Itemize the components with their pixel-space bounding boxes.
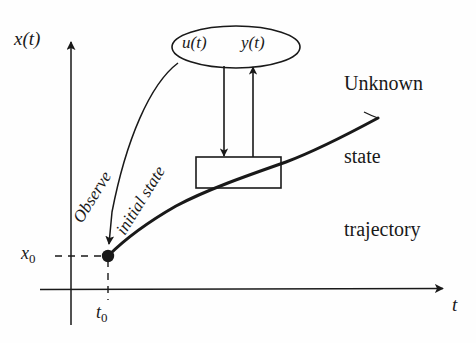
unknown-caption-line-3: trajectory: [344, 217, 423, 241]
unknown-caption-line-1: Unknown: [344, 71, 423, 95]
unknown-caption-line-2: state: [344, 144, 423, 168]
unknown-trajectory-caption: Unknown state trajectory: [344, 22, 423, 290]
t0-tick-label: t0: [96, 302, 108, 325]
x0-tick-label: x0: [21, 243, 35, 266]
system-block: [196, 157, 281, 188]
t0-subscript: 0: [101, 310, 107, 325]
input-signal-label: u(t): [182, 33, 207, 53]
state-trajectory-diagram: x(t) t x0 t0 u(t) y(t) Unknown state tra…: [0, 0, 476, 343]
initial-state-dot: [102, 250, 114, 262]
state-axis-label: x(t): [14, 28, 40, 50]
time-axis-label: t: [452, 294, 457, 316]
x0-base: x: [21, 243, 29, 263]
output-signal-label: y(t): [241, 33, 265, 53]
x0-subscript: 0: [29, 251, 35, 266]
